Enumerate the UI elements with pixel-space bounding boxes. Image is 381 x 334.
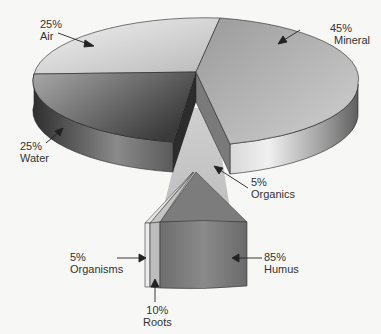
organics-name: Organics (251, 188, 295, 200)
label-organics: 5% Organics (251, 176, 295, 200)
organisms-name: Organisms (70, 263, 123, 275)
humus-pct: 85% (264, 251, 299, 263)
label-organisms: 5% Organisms (70, 251, 123, 275)
organisms-pct: 5% (70, 251, 123, 263)
label-air: 25% Air (40, 18, 62, 42)
humus-name: Humus (264, 263, 299, 275)
roots-pct: 10% (143, 304, 172, 316)
label-roots: 10% Roots (143, 304, 172, 328)
mineral-pct: 45% (330, 22, 370, 34)
organics-pct: 5% (251, 176, 295, 188)
label-mineral: 45% Mineral (330, 22, 370, 46)
air-pct: 25% (40, 18, 62, 30)
water-pct: 25% (20, 140, 49, 152)
air-name: Air (40, 30, 62, 42)
water-name: Water (20, 152, 49, 164)
mineral-name: Mineral (334, 34, 370, 46)
soil-pie-diagram (0, 0, 381, 334)
label-humus: 85% Humus (264, 251, 299, 275)
bar-humus (160, 221, 247, 289)
label-water: 25% Water (20, 140, 49, 164)
roots-name: Roots (143, 316, 172, 328)
bar-organisms (145, 223, 150, 287)
